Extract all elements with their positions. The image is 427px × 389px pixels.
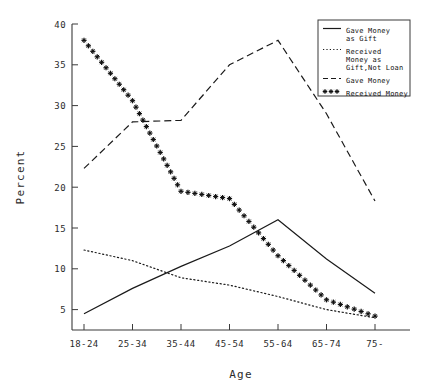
y-axis-title: Percent (14, 150, 27, 205)
x-tick-label: 75- (366, 339, 383, 349)
y-tick-label: 35 (54, 60, 66, 70)
y-tick-label: 20 (54, 183, 66, 193)
x-axis-title: Age (229, 368, 252, 381)
legend-label: Received Money (346, 90, 408, 98)
legend-label: Received (346, 48, 381, 56)
y-tick-label: 15 (54, 224, 66, 234)
legend-label: Money as (346, 56, 381, 64)
y-tick-label: 25 (54, 142, 66, 152)
y-tick-label: 30 (54, 101, 66, 111)
y-tick-label: 40 (54, 20, 66, 30)
x-tick-label: 18-24 (69, 339, 98, 349)
legend-label: as Gift (346, 35, 377, 43)
x-tick-label: 65-74 (312, 339, 341, 349)
x-tick-label: 25-34 (118, 339, 147, 349)
x-tick-label: 55-64 (263, 339, 292, 349)
legend: Gave Moneyas GiftReceivedMoney asGift,No… (318, 20, 410, 98)
x-tick-label: 35-44 (166, 339, 195, 349)
legend-label: Gift,Not Loan (346, 64, 403, 72)
chart-root: 510152025303540 18-2425-3435-4445-5455-6… (0, 0, 427, 389)
legend-label: Gave Money (346, 77, 390, 85)
line-chart: 510152025303540 18-2425-3435-4445-5455-6… (0, 0, 427, 389)
y-tick-label: 5 (60, 305, 66, 315)
legend-label: Gave Money (346, 27, 390, 35)
y-tick-label: 10 (54, 264, 66, 274)
x-tick-label: 45-54 (215, 339, 244, 349)
